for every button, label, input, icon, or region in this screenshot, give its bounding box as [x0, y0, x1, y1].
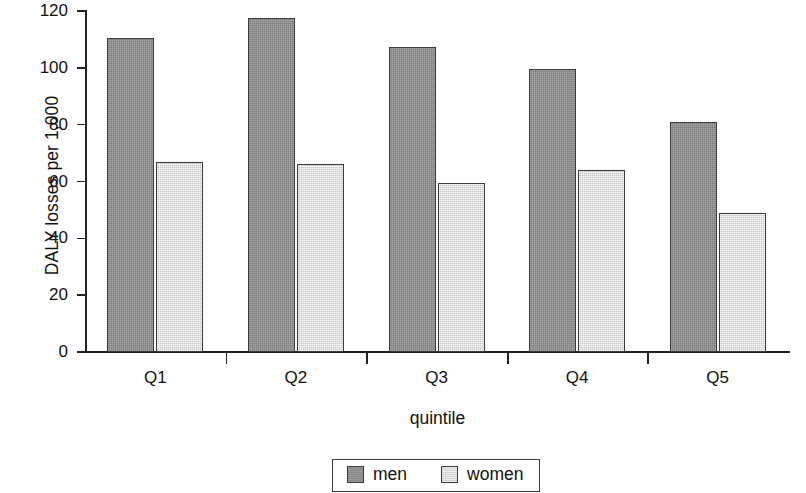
y-tick-label: 120 — [8, 2, 68, 19]
legend-entry-men: men — [347, 466, 407, 484]
y-tick-label: 100 — [8, 59, 68, 76]
bar-q2-women — [297, 164, 344, 352]
x-tick-label-q2: Q2 — [256, 368, 336, 388]
bar-q1-women — [156, 162, 203, 352]
legend-label-men: men — [373, 466, 407, 484]
y-tick-label: 40 — [8, 229, 68, 246]
y-tick-label: 0 — [8, 343, 68, 360]
bar-q5-men — [670, 122, 717, 352]
y-tick-label: 20 — [8, 286, 68, 303]
legend-entry-women: women — [441, 466, 523, 484]
bar-chart-figure: DALY losses per 1,000 020406080100120 Q1… — [0, 0, 806, 493]
legend-swatch-men — [347, 466, 364, 483]
bar-q4-women — [578, 170, 625, 352]
bar-q5-women — [719, 213, 766, 352]
legend-swatch-women — [441, 466, 458, 483]
x-tick-label-q5: Q5 — [678, 368, 758, 388]
y-tick-label: 60 — [8, 173, 68, 190]
chart-legend: menwomen — [332, 459, 540, 492]
legend-label-women: women — [467, 466, 523, 484]
x-tick-mark — [226, 353, 228, 364]
x-tick-label-q3: Q3 — [397, 368, 477, 388]
plot-area — [85, 11, 788, 352]
x-tick-label-q1: Q1 — [115, 368, 195, 388]
bar-q3-men — [389, 47, 436, 352]
y-tick-label: 80 — [8, 116, 68, 133]
bar-q4-men — [529, 69, 576, 352]
x-tick-mark — [507, 353, 509, 364]
x-tick-mark — [366, 353, 368, 364]
x-axis-title: quintile — [85, 408, 790, 429]
bar-q1-men — [107, 38, 154, 352]
x-tick-mark — [647, 353, 649, 364]
bar-q2-men — [248, 18, 295, 352]
x-tick-label-q4: Q4 — [537, 368, 617, 388]
bar-q3-women — [438, 183, 485, 352]
